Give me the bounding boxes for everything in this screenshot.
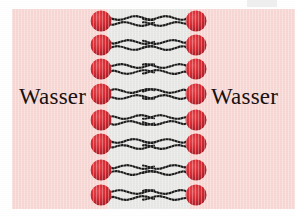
lipid-tail [143, 139, 187, 143]
page-edge-mark [247, 0, 277, 7]
lipid-head [186, 11, 207, 32]
lipid-molecule [91, 160, 155, 181]
lipid-head [91, 185, 112, 206]
lipid-tail [143, 22, 187, 26]
lipid-molecule [143, 35, 207, 56]
lipid-molecule [143, 134, 207, 155]
lipid-molecule [91, 84, 155, 105]
water-label-right: Wasser [211, 84, 278, 110]
lipid-tail [143, 46, 187, 50]
lipid-head [186, 35, 207, 56]
lipid-tail [143, 190, 187, 194]
lipid-head [186, 59, 207, 80]
lipid-molecule [91, 35, 155, 56]
lipid-molecule [91, 110, 155, 131]
lipid-tail [143, 40, 187, 44]
lipid-tail [143, 115, 187, 119]
lipid-head [186, 185, 207, 206]
lipid-molecule [91, 11, 155, 32]
lipid-head [91, 84, 112, 105]
lipid-head [91, 160, 112, 181]
lipid-molecule [143, 59, 207, 80]
lipid-leaflet-right [143, 11, 207, 206]
lipid-molecule [143, 160, 207, 181]
lipid-tail [143, 89, 187, 93]
lipid-head [186, 134, 207, 155]
lipid-tail [143, 121, 187, 125]
lipid-head [91, 11, 112, 32]
lipid-molecule [143, 84, 207, 105]
lipid-tail [143, 16, 187, 20]
lipid-tail [143, 145, 187, 149]
lipid-head [186, 160, 207, 181]
lipid-tail [143, 70, 187, 74]
lipid-head [91, 134, 112, 155]
lipid-molecule [143, 185, 207, 206]
lipid-molecule [91, 134, 155, 155]
lipid-head [91, 35, 112, 56]
lipid-head [91, 110, 112, 131]
lipid-molecule [91, 59, 155, 80]
water-label-left: Wasser [19, 84, 86, 110]
lipid-head [186, 110, 207, 131]
lipid-tail [143, 171, 187, 175]
lipid-leaflet-left [91, 11, 155, 206]
lipid-tail [143, 165, 187, 169]
lipid-head [186, 84, 207, 105]
lipid-molecule [91, 185, 155, 206]
lipid-head [91, 59, 112, 80]
lipid-molecule [143, 110, 207, 131]
lipid-molecule [143, 11, 207, 32]
phospholipid-bilayer-figure: Wasser Wasser [0, 0, 295, 216]
lipid-tail [143, 95, 187, 99]
